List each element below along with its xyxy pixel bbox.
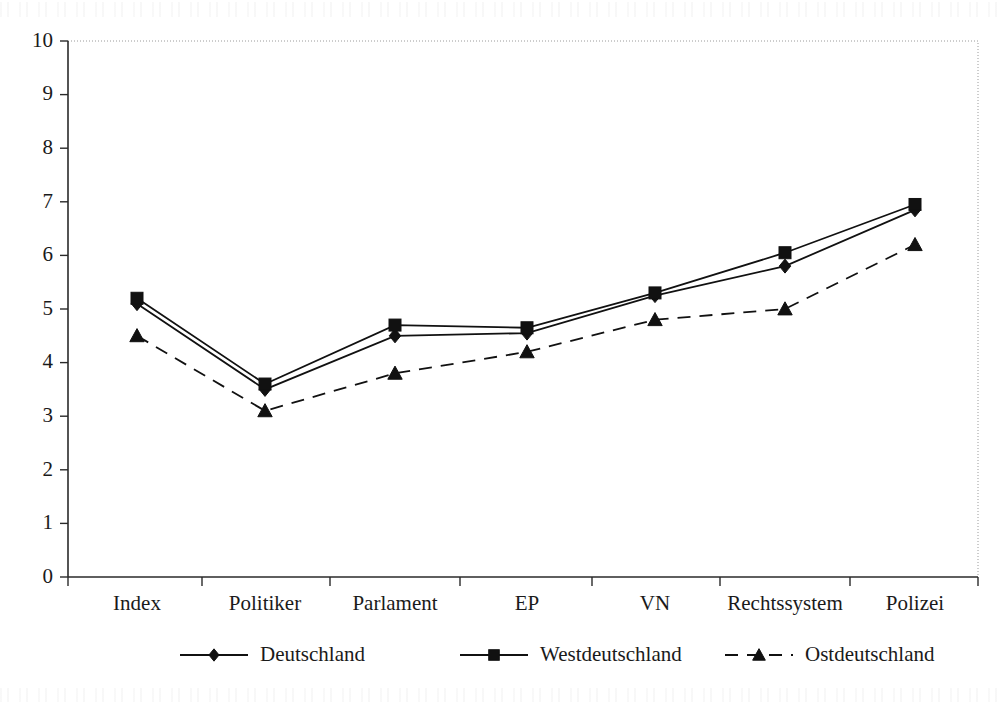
- legend-item-westdeutschland: Westdeutschland: [460, 642, 682, 666]
- marker-triangle: [258, 404, 272, 417]
- marker-square: [909, 198, 921, 210]
- marker-square: [489, 650, 500, 661]
- y-tick-label: 9: [43, 81, 54, 105]
- marker-square: [779, 247, 791, 259]
- series-deutschland: [131, 203, 920, 397]
- series-westdeutschland: [131, 198, 921, 390]
- marker-triangle: [778, 302, 792, 315]
- legend-label: Ostdeutschland: [805, 642, 935, 666]
- chart-legend: DeutschlandWestdeutschlandOstdeutschland: [180, 642, 935, 666]
- x-tick-label: Index: [113, 591, 161, 615]
- marker-square: [521, 322, 533, 334]
- marker-diamond: [209, 649, 219, 661]
- y-tick-label: 5: [43, 296, 54, 320]
- x-tick-label: Rechtssystem: [727, 591, 843, 615]
- marker-triangle: [130, 329, 144, 342]
- y-axis: 012345678910: [32, 28, 68, 588]
- x-tick-label: VN: [640, 591, 670, 615]
- legend-item-ostdeutschland: Ostdeutschland: [725, 642, 935, 666]
- marker-square: [131, 292, 143, 304]
- x-tick-label: EP: [515, 591, 540, 615]
- x-tick-label: Politiker: [229, 591, 301, 615]
- chart-canvas: 012345678910 IndexPolitikerParlamentEPVN…: [0, 0, 1007, 706]
- marker-square: [389, 319, 401, 331]
- series-line: [137, 210, 915, 390]
- marker-square: [259, 378, 271, 390]
- legend-item-deutschland: Deutschland: [180, 642, 365, 666]
- y-tick-label: 7: [43, 189, 54, 213]
- legend-label: Westdeutschland: [540, 642, 682, 666]
- y-tick-label: 0: [43, 564, 54, 588]
- marker-triangle: [908, 237, 922, 250]
- x-tick-label: Polizei: [886, 591, 944, 615]
- y-tick-label: 6: [43, 242, 54, 266]
- y-tick-label: 4: [43, 349, 54, 373]
- line-chart: 012345678910 IndexPolitikerParlamentEPVN…: [0, 0, 1007, 706]
- marker-diamond: [779, 259, 790, 273]
- series-layer: [130, 198, 922, 416]
- plot-frame: [68, 41, 978, 577]
- y-tick-label: 2: [43, 457, 54, 481]
- y-tick-label: 3: [43, 403, 54, 427]
- x-tick-label: Parlament: [352, 591, 437, 615]
- marker-square: [649, 287, 661, 299]
- x-axis: IndexPolitikerParlamentEPVNRechtssystemP…: [68, 577, 978, 615]
- y-tick-label: 10: [32, 28, 53, 52]
- y-tick-label: 1: [43, 510, 54, 534]
- legend-label: Deutschland: [260, 642, 365, 666]
- y-tick-label: 8: [43, 135, 54, 159]
